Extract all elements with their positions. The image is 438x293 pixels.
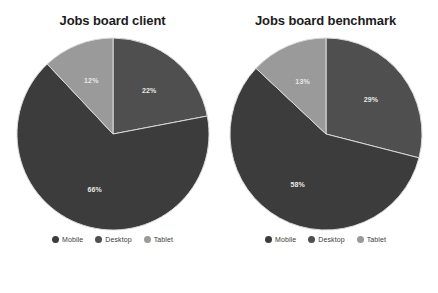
legend-benchmark: Mobile Desktop Tablet (265, 236, 386, 243)
page-title: Jobs board client (60, 14, 166, 28)
legend-label-tablet: Tablet (367, 236, 386, 243)
slice-label-desktop: 22% (142, 86, 157, 93)
legend-dot-mobile-icon (265, 236, 272, 243)
legend-label-mobile: Mobile (62, 236, 83, 243)
page-title-benchmark: Jobs board benchmark (255, 14, 396, 28)
pie-svg-client (13, 34, 213, 234)
legend-label-mobile: Mobile (275, 236, 296, 243)
legend-item-tablet[interactable]: Tablet (144, 236, 173, 243)
legend-dot-desktop-icon (308, 236, 315, 243)
pie-chart-benchmark: 29%58%13% (226, 34, 426, 234)
slice-label-desktop: 29% (364, 95, 379, 102)
pie-chart-client: 22%66%12% (13, 34, 213, 234)
legend-dot-tablet-icon (357, 236, 364, 243)
legend-dot-tablet-icon (144, 236, 151, 243)
legend-item-desktop[interactable]: Desktop (95, 236, 131, 243)
chart-panel-benchmark: Jobs board benchmark 29%58%13% Mobile De… (219, 8, 432, 287)
legend-label-desktop: Desktop (105, 236, 131, 243)
legend-label-tablet: Tablet (154, 236, 173, 243)
chart-panel-client: Jobs board client 22%66%12% Mobile Deskt… (6, 8, 219, 287)
charts-board: Jobs board client 22%66%12% Mobile Deskt… (0, 0, 438, 293)
legend-item-tablet-benchmark[interactable]: Tablet (357, 236, 386, 243)
legend-item-desktop-benchmark[interactable]: Desktop (308, 236, 344, 243)
legend-label-desktop: Desktop (318, 236, 344, 243)
legend-dot-mobile-icon (52, 236, 59, 243)
legend-item-mobile-benchmark[interactable]: Mobile (265, 236, 296, 243)
slice-label-tablet: 13% (295, 78, 310, 85)
slice-label-tablet: 12% (84, 77, 99, 84)
legend-dot-desktop-icon (95, 236, 102, 243)
slice-label-mobile: 58% (290, 181, 305, 188)
legend-client: Mobile Desktop Tablet (52, 236, 173, 243)
slice-label-mobile: 66% (87, 185, 102, 192)
pie-svg-benchmark (226, 34, 426, 234)
legend-item-mobile[interactable]: Mobile (52, 236, 83, 243)
